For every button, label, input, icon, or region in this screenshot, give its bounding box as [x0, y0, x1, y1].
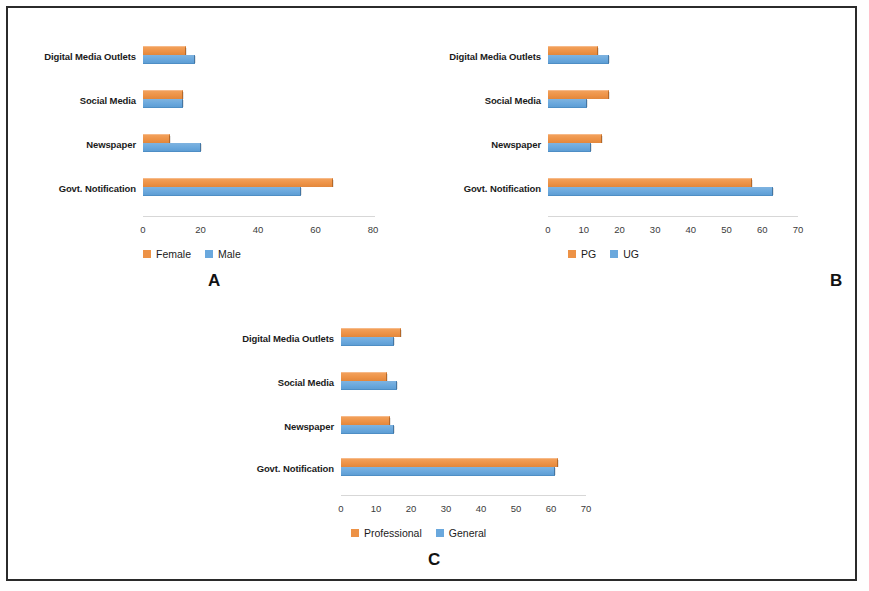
category-label: Digital Media Outlets	[242, 333, 334, 344]
bar-series-2	[548, 143, 591, 152]
category-label: Govt. Notification	[59, 183, 136, 194]
legend-label: UG	[623, 248, 639, 260]
plot-area-b: Digital Media OutletsSocial MediaNewspap…	[548, 26, 798, 216]
x-axis-tick: 60	[546, 503, 557, 514]
x-axis-tick: 70	[581, 503, 592, 514]
bar-group: Newspaper	[143, 134, 373, 153]
legend-item[interactable]: Female	[143, 248, 191, 260]
legend-label: Male	[218, 248, 241, 260]
bar-group: Digital Media Outlets	[548, 46, 798, 65]
legend-item[interactable]: General	[436, 527, 486, 539]
bar-series-2	[143, 187, 301, 196]
bar-group: Govt. Notification	[143, 178, 373, 197]
legend-swatch-icon	[143, 250, 151, 258]
figure-border: Digital Media OutletsSocial MediaNewspap…	[6, 6, 857, 581]
legend-item[interactable]: UG	[610, 248, 639, 260]
x-axis-tick: 20	[195, 224, 206, 235]
legend-c: ProfessionalGeneral	[351, 527, 486, 539]
legend-swatch-icon	[436, 529, 444, 537]
x-axis-tick: 30	[650, 224, 661, 235]
legend-label: Female	[156, 248, 191, 260]
x-axis-tick: 40	[476, 503, 487, 514]
plot-area-c: Digital Media OutletsSocial MediaNewspap…	[341, 310, 586, 495]
legend-swatch-icon	[351, 529, 359, 537]
x-axis-tick: 0	[545, 224, 550, 235]
legend-label: PG	[581, 248, 596, 260]
category-label: Social Media	[278, 377, 334, 388]
bar-series-2	[143, 55, 195, 64]
bar-series-2	[341, 425, 394, 434]
bar-group: Newspaper	[548, 134, 798, 153]
bar-group: Newspaper	[341, 416, 586, 435]
bar-series-1	[548, 90, 609, 99]
bar-series-2	[341, 467, 555, 476]
x-axis-tick: 50	[721, 224, 732, 235]
bar-series-2	[548, 187, 773, 196]
panel-letter-b: B	[830, 271, 842, 291]
legend-a: FemaleMale	[143, 248, 241, 260]
bar-series-1	[143, 178, 333, 187]
figure-page: Digital Media OutletsSocial MediaNewspap…	[0, 0, 869, 591]
chart-panel-a: Digital Media OutletsSocial MediaNewspap…	[8, 26, 408, 296]
x-axis-tick: 20	[614, 224, 625, 235]
bar-series-1	[548, 46, 598, 55]
bar-group: Social Media	[341, 372, 586, 391]
category-label: Newspaper	[491, 139, 541, 150]
bar-series-2	[548, 99, 587, 108]
x-axis-tick: 70	[793, 224, 804, 235]
axis-line-b	[548, 216, 798, 217]
bar-series-2	[548, 55, 609, 64]
category-label: Digital Media Outlets	[449, 51, 541, 62]
category-label: Newspaper	[86, 139, 136, 150]
legend-label: General	[449, 527, 486, 539]
bar-series-1	[341, 458, 558, 467]
x-axis-tick: 30	[441, 503, 452, 514]
bar-series-1	[341, 416, 390, 425]
bar-group: Govt. Notification	[341, 458, 586, 477]
category-label: Govt. Notification	[464, 183, 541, 194]
x-axis-tick: 50	[511, 503, 522, 514]
legend-item[interactable]: Professional	[351, 527, 422, 539]
bar-series-2	[341, 381, 397, 390]
bar-series-1	[548, 178, 752, 187]
legend-swatch-icon	[568, 250, 576, 258]
category-label: Digital Media Outlets	[44, 51, 136, 62]
legend-item[interactable]: PG	[568, 248, 596, 260]
x-axis-tick: 80	[368, 224, 379, 235]
x-axis-tick: 60	[757, 224, 768, 235]
bar-group: Digital Media Outlets	[341, 328, 586, 347]
x-axis-tick: 40	[253, 224, 264, 235]
chart-panel-b: Digital Media OutletsSocial MediaNewspap…	[423, 26, 863, 296]
plot-area-a: Digital Media OutletsSocial MediaNewspap…	[143, 26, 373, 216]
bar-series-1	[143, 90, 183, 99]
bar-group: Social Media	[548, 90, 798, 109]
legend-swatch-icon	[610, 250, 618, 258]
category-label: Social Media	[80, 95, 136, 106]
legend-label: Professional	[364, 527, 422, 539]
category-label: Govt. Notification	[257, 463, 334, 474]
category-label: Social Media	[485, 95, 541, 106]
legend-b: PGUG	[568, 248, 639, 260]
bar-series-2	[143, 99, 183, 108]
bar-series-2	[143, 143, 201, 152]
bar-group: Digital Media Outlets	[143, 46, 373, 65]
bar-group: Social Media	[143, 90, 373, 109]
x-axis-tick: 10	[371, 503, 382, 514]
panel-letter-c: C	[428, 550, 440, 570]
bar-series-1	[341, 328, 401, 337]
bar-series-2	[341, 337, 394, 346]
legend-swatch-icon	[205, 250, 213, 258]
bar-group: Govt. Notification	[548, 178, 798, 197]
bar-series-1	[341, 372, 387, 381]
bar-series-1	[143, 46, 186, 55]
bar-series-1	[548, 134, 602, 143]
axis-line-a	[143, 216, 375, 217]
category-label: Newspaper	[284, 421, 334, 432]
x-axis-tick: 10	[578, 224, 589, 235]
legend-item[interactable]: Male	[205, 248, 241, 260]
x-axis-tick: 60	[310, 224, 321, 235]
chart-panel-c: Digital Media OutletsSocial MediaNewspap…	[213, 310, 663, 585]
x-axis-tick: 0	[140, 224, 145, 235]
x-axis-tick: 40	[686, 224, 697, 235]
axis-line-c	[341, 495, 586, 496]
